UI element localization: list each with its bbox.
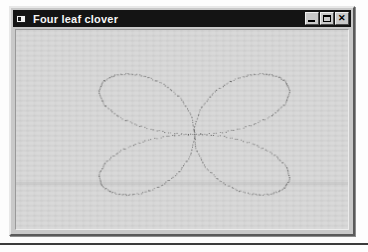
title-bar[interactable]: Four leaf clover ✕ (13, 10, 351, 27)
maximize-button[interactable] (320, 12, 334, 25)
maximize-icon (323, 15, 331, 22)
scanned-page-background: Four leaf clover ✕ (0, 0, 368, 252)
window-title: Four leaf clover (33, 13, 305, 25)
minimize-icon (308, 20, 315, 22)
window-controls: ✕ (305, 12, 350, 25)
application-window: Four leaf clover ✕ (9, 6, 355, 236)
close-icon: ✕ (336, 13, 348, 24)
page-separator-rule (0, 243, 368, 245)
system-menu-glyph (16, 15, 26, 23)
window-system-menu-icon[interactable] (15, 13, 28, 25)
four-leaf-clover-plot (16, 30, 348, 229)
close-button[interactable]: ✕ (335, 12, 349, 25)
minimize-button[interactable] (305, 12, 319, 25)
plot-client-area[interactable] (15, 29, 349, 230)
